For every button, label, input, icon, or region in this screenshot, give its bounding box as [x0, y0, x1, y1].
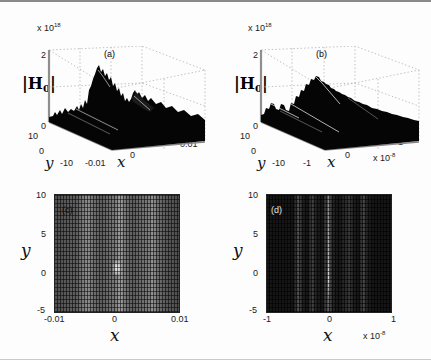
- panel-d-axis-bottom: [266, 312, 391, 313]
- panel-c-heatmap: [54, 195, 179, 312]
- figure-canvas: x 1018 (a) 2 0 |H0| 10 0 -10 y -0.01 0 0…: [0, 0, 431, 360]
- panel-b-xtick-m1: -1: [303, 159, 311, 168]
- panel-b-ytick-m10: -10: [272, 159, 285, 168]
- panel-b-ytick-10: 10: [240, 132, 250, 141]
- panel-d-y-axis-label: y: [233, 242, 243, 259]
- panel-a-z-multiplier: x 1018: [37, 24, 61, 33]
- panel-c-tag: (c): [62, 206, 73, 215]
- panel-d-xtick-m1: -1: [263, 315, 271, 324]
- panel-a-surface-plot: [46, 46, 208, 154]
- panel-c-axis-top: [54, 194, 179, 195]
- panel-d-xtick-0: 0: [327, 315, 332, 324]
- panel-d-ytick-0: 0: [253, 269, 258, 278]
- panel-c-axis-right: [179, 194, 180, 313]
- panel-d-x-multiplier: x 10-8: [363, 332, 385, 341]
- panel-d-xtick-1: 1: [391, 315, 396, 324]
- panel-c-ytick-10: 10: [36, 191, 46, 200]
- panel-d-x-axis-label: x: [323, 327, 333, 344]
- panel-c-axis-left: [54, 194, 55, 313]
- panel-c-xtick-m001: -0.01: [44, 315, 65, 324]
- panel-d-heatmap: [266, 195, 391, 312]
- panel-b-x-multiplier: x 10-8: [373, 154, 395, 163]
- panel-d-axis-top: [266, 194, 391, 195]
- panel-d-ytick-m5: -5: [249, 306, 257, 315]
- panel-c-xtick-0: 0: [112, 315, 117, 324]
- panel-c-xtick-001: 0.01: [171, 315, 189, 324]
- panel-a: x 1018 (a) 2 0 |H0| 10 0 -10 y -0.01 0 0…: [0, 10, 215, 175]
- panel-b-y-axis-label: y: [257, 156, 265, 171]
- panel-d-ytick-10: 10: [248, 191, 258, 200]
- panel-b-ytick-0: 0: [251, 147, 256, 156]
- panel-c-y-axis-label: y: [21, 242, 31, 259]
- panel-c-vignette: [54, 195, 179, 312]
- panel-a-y-axis-label: y: [45, 156, 53, 171]
- panel-d-axis-left: [266, 194, 267, 313]
- panel-a-ytick-0: 0: [39, 147, 44, 156]
- panel-a-x-axis-label: x: [117, 155, 125, 170]
- panel-b: x 1018 (b) 2 0 |H0| 10 0 -10 y -1 0 1 x …: [215, 10, 431, 175]
- panel-b-surface-plot: [258, 46, 423, 154]
- panel-c: 10 5 0 -5 y -0.01 0 0.01 x (c): [0, 182, 215, 360]
- panel-c-x-axis-label: x: [110, 327, 120, 344]
- panel-d-axis-right: [391, 194, 392, 313]
- panel-a-ytick-m10: -10: [60, 159, 73, 168]
- panel-b-x-axis-label: x: [327, 155, 335, 170]
- panel-d-mesh-grid: [266, 195, 391, 312]
- panel-c-ytick-0: 0: [41, 269, 46, 278]
- panel-a-ytick-10: 10: [28, 132, 38, 141]
- panel-c-axis-bottom: [54, 312, 179, 313]
- panel-d-tag: (d): [271, 206, 282, 215]
- panel-a-xtick-m001: -0.01: [85, 159, 106, 168]
- panel-c-ytick-5: 5: [41, 230, 46, 239]
- panel-d-ytick-5: 5: [253, 230, 258, 239]
- panel-d: 10 5 0 -5 y -1 0 1 x x 10-8 (d): [215, 182, 431, 360]
- panel-b-z-multiplier: x 1018: [248, 24, 272, 33]
